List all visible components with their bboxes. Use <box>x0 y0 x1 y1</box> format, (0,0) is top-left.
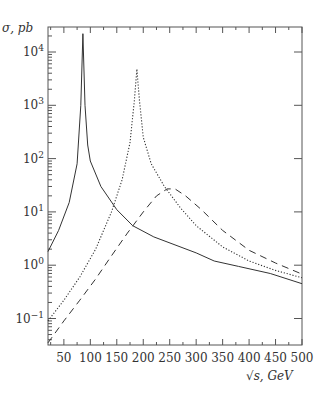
x-tick-label: 200 <box>132 351 155 365</box>
x-tick-label: 400 <box>238 351 261 365</box>
axis-ticks <box>48 27 302 345</box>
x-tick-label: 100 <box>79 351 102 365</box>
y-tick-labels: 10−1100101102103104 <box>15 43 44 326</box>
x-tick-label: 300 <box>185 351 208 365</box>
y-tick-label: 102 <box>23 150 44 166</box>
y-tick-label: 10−1 <box>15 310 44 326</box>
data-series <box>48 34 302 343</box>
y-tick-label: 100 <box>23 256 44 272</box>
x-tick-labels: 50100150200250300350400450500 <box>56 351 313 365</box>
x-tick-label: 450 <box>264 351 287 365</box>
y-tick-label: 101 <box>23 203 44 219</box>
y-axis-label: σ, pb <box>2 21 33 35</box>
series-solid <box>48 34 302 284</box>
x-axis-label: √s, GeV <box>246 369 294 383</box>
x-tick-label: 50 <box>56 351 71 365</box>
y-tick-label: 103 <box>23 96 44 112</box>
cross-section-chart: 50100150200250300350400450500 10−1100101… <box>0 0 323 404</box>
x-tick-label: 150 <box>105 351 128 365</box>
plot-frame <box>48 27 302 345</box>
x-tick-label: 350 <box>211 351 234 365</box>
series-dotted <box>48 69 302 321</box>
x-tick-label: 250 <box>158 351 181 365</box>
y-tick-label: 104 <box>23 43 44 59</box>
x-tick-label: 500 <box>291 351 314 365</box>
